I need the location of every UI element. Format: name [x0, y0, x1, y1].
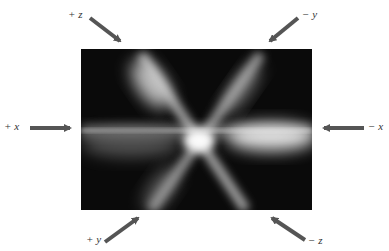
minus-z-arrow [272, 218, 305, 240]
plus-z-arrow [90, 18, 120, 41]
label-minus-y: − y [302, 8, 317, 20]
direction-arrows [0, 0, 389, 251]
minus-y-arrow [270, 18, 298, 41]
label-minus-z: − z [308, 234, 322, 246]
label-minus-x: − x [368, 120, 383, 132]
plus-y-arrow [105, 218, 138, 242]
label-plus-y: + y [86, 233, 101, 245]
label-plus-x: + x [4, 120, 19, 132]
label-plus-z: + z [68, 8, 82, 20]
